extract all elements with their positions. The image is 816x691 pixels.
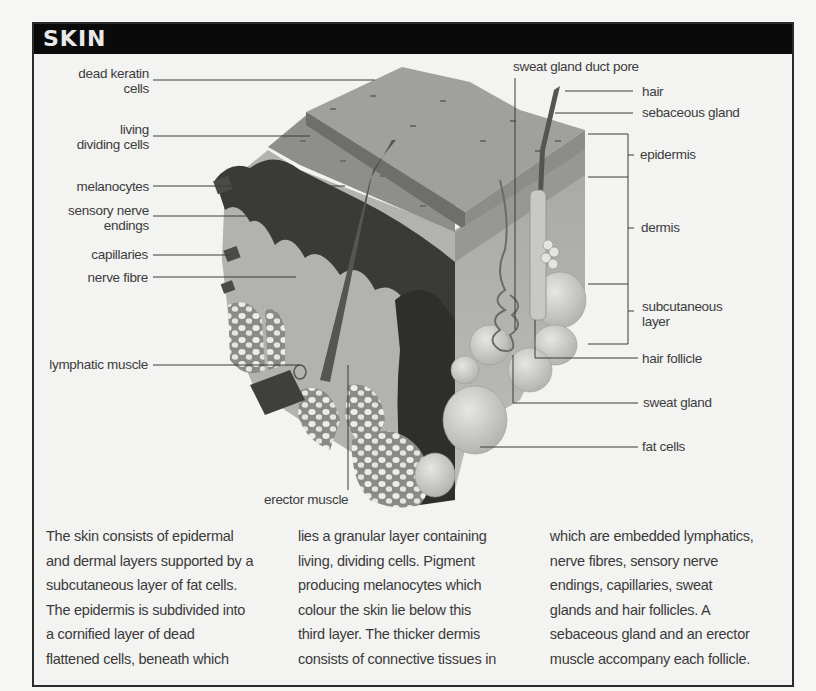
caption-column-2: lies a granular layer containing living,… (298, 524, 550, 671)
label-subcutaneous-layer: subcutaneous layer (642, 299, 722, 329)
label-epidermis: epidermis (640, 147, 696, 162)
label-hair: hair (642, 84, 663, 99)
label-nerve-fibre: nerve fibre (88, 270, 148, 285)
caption-column-1: The skin consists of epidermal and derma… (46, 524, 298, 671)
label-fat-cells: fat cells (642, 439, 685, 454)
label-hair-follicle: hair follicle (642, 351, 702, 366)
label-sensory-nerve-endings: sensory nerve endings (68, 203, 149, 233)
label-dermis: dermis (641, 220, 680, 235)
label-dead-keratin-cells: dead keratin cells (78, 66, 149, 96)
label-melanocytes: melanocytes (77, 179, 150, 194)
label-erector-muscle: erector muscle (264, 492, 348, 507)
label-sebaceous-gland: sebaceous gland (642, 105, 740, 120)
caption-column-3: which are embedded lymphatics, nerve fib… (550, 524, 786, 671)
label-living-dividing-cells: living dividing cells (77, 122, 149, 152)
label-capillaries: capillaries (91, 247, 148, 262)
figure-caption: The skin consists of epidermal and derma… (46, 524, 786, 671)
label-lymphatic-muscle: lymphatic muscle (49, 357, 148, 372)
label-sweat-gland: sweat gland (643, 395, 712, 410)
label-sweat-gland-duct-pore: sweat gland duct pore (513, 59, 639, 74)
